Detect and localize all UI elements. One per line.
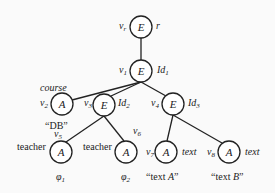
node-attr: text — [182, 146, 197, 157]
edge-v3-v6 — [104, 116, 124, 141]
node-type-label: E — [137, 65, 145, 77]
node-type-label: A — [225, 146, 233, 158]
edges — [66, 38, 222, 143]
node-type-label: A — [162, 146, 170, 158]
node-vr: E vr r — [119, 16, 160, 38]
edge-v1-v4 — [141, 82, 166, 96]
node-attr: teacher — [83, 141, 113, 152]
node-name: v1 — [119, 64, 127, 77]
node-name: v7 — [146, 146, 154, 159]
node-name: v4 — [151, 97, 159, 110]
node-v4: E v4 Id3 — [151, 93, 200, 115]
node-type-label: E — [100, 99, 108, 111]
node-attr: teacher — [17, 141, 47, 152]
node-v1: E v1 Id1 — [119, 60, 169, 82]
edge-v4-v8 — [173, 115, 222, 143]
node-attr: Id3 — [187, 97, 200, 110]
node-attr: course — [40, 82, 67, 93]
edge-v4-v7 — [167, 115, 173, 141]
node-value: φ1 — [56, 171, 65, 184]
node-value: φ2 — [121, 171, 131, 184]
node-v3: E v3 Id2 — [84, 94, 130, 116]
node-type-label: A — [58, 98, 66, 110]
tree-diagram: E vr r E v1 Id1 A v2 course “DB” E v3 Id… — [0, 0, 275, 193]
node-type-label: A — [122, 146, 130, 158]
node-v6: A v6 teacher φ2 — [83, 125, 141, 184]
node-attr: text — [245, 146, 260, 157]
node-v7: A v7 text “text A” — [146, 141, 197, 182]
node-value: “text A” — [146, 171, 179, 182]
node-v2: A v2 course “DB” — [40, 82, 73, 131]
diagram-svg: E vr r E v1 Id1 A v2 course “DB” E v3 Id… — [0, 0, 275, 193]
node-name: v6 — [133, 125, 141, 138]
node-v5: A v5 teacher φ1 — [17, 128, 72, 184]
node-value: “text B” — [211, 171, 244, 182]
node-v8: A v8 text “text B” — [207, 141, 260, 182]
node-name: vr — [119, 20, 126, 33]
node-type-label: A — [57, 146, 65, 158]
node-type-label: E — [169, 98, 177, 110]
node-name: v3 — [84, 97, 92, 110]
node-type-label: E — [137, 21, 145, 33]
node-attr: Id1 — [156, 64, 169, 77]
node-attr: r — [156, 20, 160, 31]
node-name: v2 — [40, 97, 48, 110]
edge-v3-v5 — [66, 116, 104, 142]
node-attr: Id2 — [117, 97, 130, 110]
node-name: v8 — [207, 146, 215, 159]
